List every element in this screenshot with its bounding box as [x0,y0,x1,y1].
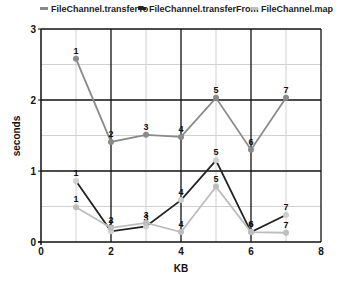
data-point-marker-icon [73,204,79,210]
point-label: 4 [178,124,183,134]
point-label: 1 [73,194,78,204]
legend: FileChannel.transferToFileChannel.transf… [40,4,334,14]
point-label: 5 [213,147,218,157]
data-point-marker-icon [178,197,184,203]
point-label: 7 [283,202,288,212]
legend-item: FileChannel.transferTo [40,4,149,14]
x-tick-label: 6 [248,246,254,257]
data-point-marker-icon [213,157,219,163]
data-point-marker-icon [248,229,254,235]
data-point-marker-icon [143,132,149,138]
legend-swatch-icon [40,7,48,10]
data-point-marker-icon [283,230,289,236]
point-label: 3 [143,210,148,220]
point-label: 7 [283,220,288,230]
data-point-marker-icon [73,56,79,62]
point-label: 1 [73,168,78,178]
x-tick-label: 0 [38,246,44,257]
data-point-marker-icon [283,212,289,218]
point-label: 6 [248,219,253,229]
x-tick-label: 2 [108,246,114,257]
legend-item: FileChannel.map [250,4,334,14]
y-tick-label: 0 [30,237,36,248]
point-label: 4 [178,219,183,229]
data-point-marker-icon [108,139,114,145]
y-tick-label: 1 [30,166,36,177]
x-axis-label: KB [174,263,188,274]
point-label: 3 [143,122,148,132]
legend-item: FileChannel.transferFrom [138,4,259,14]
point-label: 2 [108,215,113,225]
x-tick-label: 4 [178,246,184,257]
legend-label: FileChannel.transferTo [51,4,149,14]
legend-swatch-icon [138,7,146,10]
x-tick-label: 8 [318,246,324,257]
point-label: 5 [213,85,218,95]
data-point-marker-icon [283,95,289,101]
legend-label: FileChannel.transferFrom [149,4,259,14]
data-point-marker-icon [143,220,149,226]
data-point-marker-icon [213,184,219,190]
data-point-marker-icon [108,225,114,231]
point-label: 4 [178,187,183,197]
data-point-marker-icon [248,147,254,153]
y-axis-label: seconds [11,115,22,156]
legend-label: FileChannel.map [261,4,334,14]
data-point-marker-icon [73,178,79,184]
data-point-marker-icon [213,95,219,101]
y-tick-label: 2 [30,95,36,106]
point-label: 5 [213,174,218,184]
y-tick-label: 3 [30,24,36,35]
point-label: 1 [73,46,78,56]
point-label: 7 [283,85,288,95]
data-point-marker-icon [178,134,184,140]
line-chart: FileChannel.transferToFileChannel.transf… [0,0,338,286]
legend-swatch-icon [250,7,258,10]
point-label: 2 [108,129,113,139]
point-label: 6 [248,137,253,147]
data-point-marker-icon [178,229,184,235]
